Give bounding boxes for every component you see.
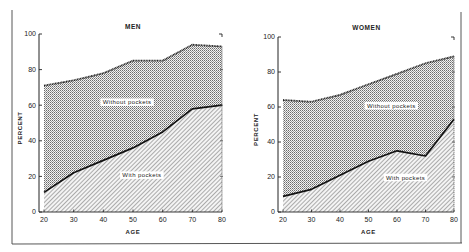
y-tick-label: 60 <box>28 102 36 109</box>
y-axis-title: PERCENT <box>17 112 23 145</box>
y-tick-label: 100 <box>24 30 36 37</box>
x-axis-title: AGE <box>361 229 376 235</box>
chart-title: WOMEN <box>352 24 381 31</box>
x-tick-label: 60 <box>393 216 401 223</box>
x-tick-label: 80 <box>450 216 458 223</box>
y-tick-label: 60 <box>267 103 275 110</box>
y-tick-label: 100 <box>263 33 275 40</box>
chart-panel-women: 02040608010020304050607080 WOMEN AGE PER… <box>253 24 458 235</box>
x-axis-title: AGE <box>126 229 141 235</box>
x-tick-label: 50 <box>365 216 373 223</box>
x-tick-label: 30 <box>70 216 78 223</box>
area-layer <box>44 45 222 212</box>
y-tick-label: 80 <box>28 66 36 73</box>
y-tick-label: 0 <box>32 208 36 215</box>
area-annotation-label: Without pockets <box>367 103 416 109</box>
area-layer <box>283 56 454 212</box>
x-tick-label: 80 <box>218 216 226 223</box>
chart-title: MEN <box>125 23 141 30</box>
area-annotation-label: Without pockets <box>103 99 152 105</box>
y-tick-label: 80 <box>267 68 275 75</box>
x-tick-label: 20 <box>40 216 48 223</box>
x-tick-label: 40 <box>99 216 107 223</box>
area-annotation-label: With pockets <box>386 175 425 181</box>
x-tick-label: 70 <box>188 216 196 223</box>
area-annotation-label: With pockets <box>122 172 161 178</box>
x-tick-label: 50 <box>129 216 137 223</box>
y-tick-label: 40 <box>28 137 36 144</box>
y-tick-label: 0 <box>271 208 275 215</box>
x-tick-label: 30 <box>308 216 316 223</box>
y-tick-label: 20 <box>267 173 275 180</box>
chart-panel-men: 02040608010020304050607080 MEN AGE PERCE… <box>17 23 226 235</box>
x-tick-label: 40 <box>336 216 344 223</box>
figure: 02040608010020304050607080 MEN AGE PERCE… <box>0 0 469 252</box>
y-axis-title: PERCENT <box>253 113 259 146</box>
x-tick-label: 70 <box>422 216 430 223</box>
y-tick-label: 40 <box>267 138 275 145</box>
x-tick-label: 60 <box>159 216 167 223</box>
y-tick-label: 20 <box>28 173 36 180</box>
x-tick-label: 20 <box>279 216 287 223</box>
